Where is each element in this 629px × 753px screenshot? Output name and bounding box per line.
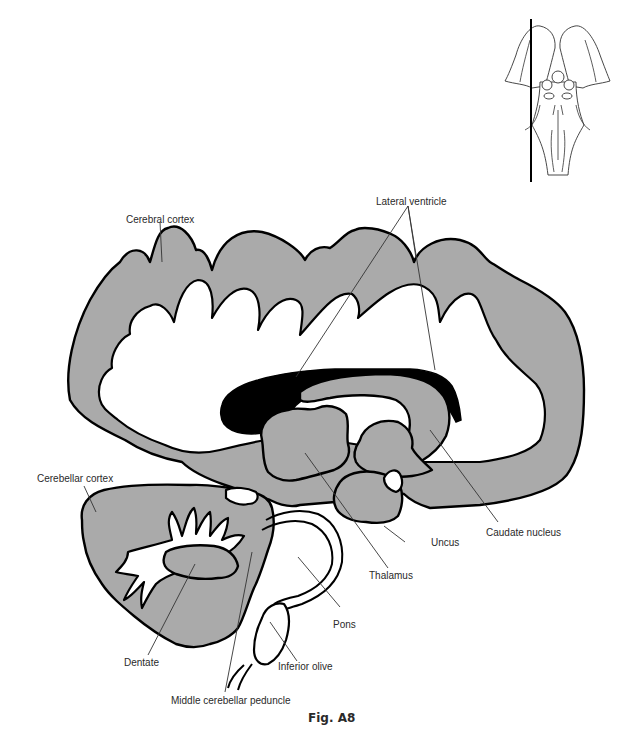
label-middle-cerebellar-peduncle: Middle cerebellar peduncle — [171, 695, 291, 707]
dentate-region — [164, 545, 238, 579]
label-inferior-olive: Inferior olive — [278, 661, 332, 673]
label-uncus: Uncus — [431, 537, 459, 549]
label-cerebellar-cortex: Cerebellar cortex — [37, 473, 113, 485]
label-lateral-ventricle: Lateral ventricle — [376, 196, 447, 208]
figure-caption: Fig. A8 — [308, 711, 355, 725]
cerebellum — [82, 485, 274, 647]
label-pons: Pons — [333, 619, 356, 631]
label-dentate: Dentate — [124, 657, 159, 669]
reference-inset — [505, 19, 610, 182]
pons-outline — [266, 511, 342, 614]
label-thalamus: Thalamus — [369, 570, 413, 582]
thalamus-region — [261, 406, 349, 481]
inferior-olive-region — [254, 604, 289, 665]
label-caudate-nucleus: Caudate nucleus — [486, 527, 561, 539]
label-cerebral-cortex: Cerebral cortex — [126, 214, 194, 226]
cerebrum — [68, 227, 584, 508]
medulla-lines — [228, 664, 252, 690]
cerebellar-white-patch — [226, 488, 258, 505]
brain-sagittal-figure: Cerebral cortex Lateral ventricle Cerebe… — [0, 0, 629, 753]
brain-diagram — [0, 0, 629, 753]
